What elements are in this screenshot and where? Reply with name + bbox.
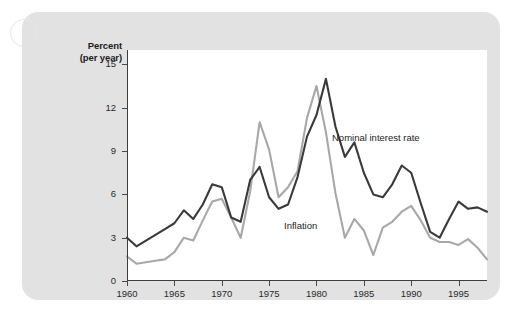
x-tick-label: 1985 (344, 289, 384, 299)
x-tick-mark (174, 281, 175, 286)
y-tick-label: 0 (92, 276, 116, 286)
x-tick-label: 1965 (154, 289, 194, 299)
y-tick-label: 12 (92, 103, 116, 113)
x-tick-label: 1980 (296, 289, 336, 299)
x-tick-mark (127, 281, 128, 286)
x-tick-label: 1970 (202, 289, 242, 299)
x-tick-label: 1990 (391, 289, 431, 299)
y-tick-mark (122, 64, 127, 65)
x-tick-mark (364, 281, 365, 286)
x-tick-label: 1995 (439, 289, 479, 299)
series-line-inflation (127, 86, 487, 264)
y-tick-label: 3 (92, 233, 116, 243)
series-label-nominal-interest-rate: Nominal interest rate (332, 132, 420, 143)
x-tick-mark (459, 281, 460, 286)
x-tick-mark (222, 281, 223, 286)
x-tick-mark (316, 281, 317, 286)
figure-panel: Percent (per year) 03691215 196019651970… (22, 12, 500, 300)
x-tick-mark (269, 281, 270, 286)
y-tick-label: 6 (92, 189, 116, 199)
y-tick-label: 15 (92, 59, 116, 69)
y-tick-mark (122, 108, 127, 109)
y-tick-mark (122, 194, 127, 195)
x-tick-mark (411, 281, 412, 286)
x-tick-label: 1975 (249, 289, 289, 299)
y-tick-label: 9 (92, 146, 116, 156)
y-tick-mark (122, 151, 127, 152)
series-label-inflation: Inflation (284, 220, 317, 231)
y-axis-line (127, 50, 128, 281)
y-tick-mark (122, 238, 127, 239)
x-axis-line (127, 280, 487, 281)
x-tick-label: 1960 (107, 289, 147, 299)
